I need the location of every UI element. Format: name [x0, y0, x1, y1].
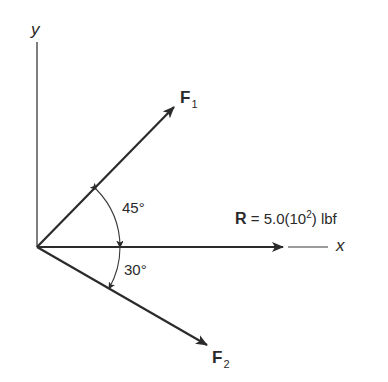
- r-equation: = 5.0(10: [247, 210, 307, 227]
- f1-subscript: 1: [191, 98, 197, 110]
- r-units: ) lbf: [312, 210, 337, 227]
- angle-arc-45: [97, 190, 121, 248]
- f2-label: F2: [212, 349, 230, 366]
- r-exponent: 2: [306, 209, 312, 220]
- angle-label-45: 45°: [122, 200, 145, 215]
- f2-vector: [37, 247, 207, 345]
- x-axis-label: x: [336, 237, 345, 254]
- force-diagram-canvas: [0, 0, 388, 382]
- r-symbol: R: [235, 210, 247, 227]
- y-axis-label: y: [31, 21, 40, 38]
- f2-subscript: 2: [223, 358, 229, 370]
- f1-symbol: F: [180, 88, 190, 107]
- angle-label-30: 30°: [124, 262, 147, 277]
- f1-vector: [37, 107, 174, 247]
- r-label: R = 5.0(102) lbf: [235, 211, 337, 227]
- f1-label: F1: [180, 89, 198, 106]
- angle-arc-30: [109, 247, 120, 289]
- f2-symbol: F: [212, 348, 222, 367]
